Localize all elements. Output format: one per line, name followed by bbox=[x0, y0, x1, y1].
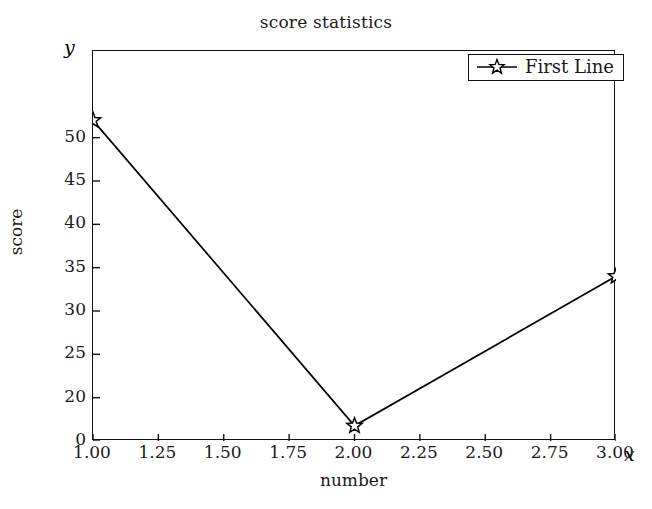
x-axis-label: number bbox=[92, 470, 615, 490]
chart-figure: score statistics y x 020253035404550 1.0… bbox=[0, 0, 652, 509]
series-line bbox=[93, 120, 616, 426]
x-tick-label: 1.25 bbox=[122, 444, 192, 461]
x-tick-label: 2.50 bbox=[449, 444, 519, 461]
legend[interactable]: First Line bbox=[468, 54, 624, 81]
star-marker-icon bbox=[476, 58, 518, 76]
plot-canvas bbox=[93, 51, 616, 441]
legend-entry-label: First Line bbox=[525, 58, 614, 76]
x-tick-label: 1.75 bbox=[253, 444, 323, 461]
x-tick-label: 1.50 bbox=[188, 444, 258, 461]
x-tick-label: 2.00 bbox=[319, 444, 389, 461]
data-series-layer bbox=[93, 112, 616, 432]
x-tick-label: 1.00 bbox=[57, 444, 127, 461]
x-tick-label: 2.25 bbox=[384, 444, 454, 461]
tick-marks bbox=[93, 138, 616, 441]
plot-area bbox=[92, 50, 615, 440]
y-axis-label: score bbox=[6, 182, 26, 282]
x-tick-label: 3.00 bbox=[580, 444, 650, 461]
x-tick-label: 2.75 bbox=[515, 444, 585, 461]
data-point-marker bbox=[93, 112, 101, 126]
